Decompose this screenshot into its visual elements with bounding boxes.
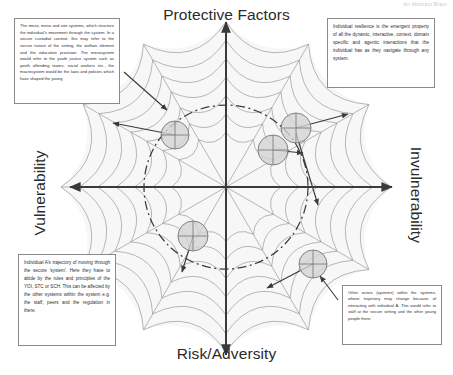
node-lower-right xyxy=(299,250,327,278)
axis-title-risk-adversity: Risk/Adversity xyxy=(0,345,453,363)
node-lower-left xyxy=(178,221,208,251)
node-upper-right xyxy=(281,113,311,143)
axis-title-vulnerability: Vulnerability xyxy=(31,113,49,273)
callout-other-actors: Other actors (systems) within the system… xyxy=(342,285,442,345)
node-center-right xyxy=(258,135,288,165)
callout-individual-resilience: Individual resilience is the emergent pr… xyxy=(327,18,435,88)
axis-title-invulnerability: Invulnerability xyxy=(407,115,425,275)
callout-systems-structure: The micro, meso and exo systems, which s… xyxy=(14,18,120,104)
callout-individual-a-trajectory: Individual A's trajectory of moving thro… xyxy=(18,254,116,346)
node-upper-left xyxy=(161,121,189,149)
diagram-canvas: An Abstract Brain Protective Factors Ris… xyxy=(0,0,453,375)
